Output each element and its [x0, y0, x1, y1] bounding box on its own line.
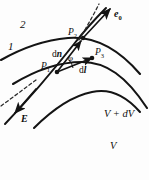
point-label-p1: P1	[41, 62, 50, 73]
vector-label-dn: dn	[52, 50, 62, 60]
potential-label-outer: V + dV	[104, 109, 134, 120]
vector-label-dl: dl	[79, 66, 86, 76]
dn-symbol: n	[57, 49, 62, 59]
vector-e0-arrow	[83, 9, 110, 38]
point-marker-p2	[81, 36, 86, 41]
point-p1-subscript: 1	[47, 66, 50, 73]
potential-label-inner: V	[110, 141, 116, 152]
point-p2-subscript: 2	[74, 32, 77, 39]
point-label-p2: P2	[68, 28, 77, 39]
vector-label-e0: e0	[114, 9, 122, 22]
angle-label-phi: φ	[68, 54, 73, 63]
equipotential-field-diagram: 2 1 e0 P2 P3 P1 dn dl φ V + dV V E	[0, 0, 149, 180]
field-line-dashed-upper	[79, 4, 99, 40]
field-line-dashed-lower	[1, 80, 36, 106]
point-marker-p3	[90, 56, 95, 61]
vector-e0-subscript: 0	[118, 14, 121, 21]
field-line-group	[1, 4, 106, 124]
vector-label-E: E	[21, 114, 28, 124]
curve-label-1: 1	[8, 41, 14, 52]
vector-E-arrow	[15, 89, 36, 113]
point-p3-subscript: 3	[101, 52, 104, 59]
vector-arrows	[15, 9, 110, 113]
point-label-p3: P3	[95, 48, 104, 59]
curve-label-2: 2	[20, 19, 26, 30]
vector-E-symbol: E	[21, 113, 28, 124]
dl-symbol: l	[84, 65, 87, 75]
point-marker-p1	[55, 70, 60, 75]
